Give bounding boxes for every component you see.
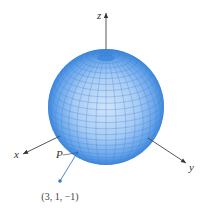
north-pole-shading xyxy=(97,55,115,62)
sphere-diagram: z x y P (3, 1, −1) xyxy=(0,0,205,209)
z-axis-arrowhead xyxy=(104,13,108,18)
y-axis-arrowhead xyxy=(181,158,186,163)
point-p-label: P xyxy=(55,148,63,160)
external-point-marker xyxy=(58,179,62,183)
external-point-label: (3, 1, −1) xyxy=(41,191,78,203)
y-axis-line xyxy=(148,138,186,163)
y-axis: y xyxy=(148,138,194,173)
point-annotation: P (3, 1, −1) xyxy=(41,148,78,203)
z-axis: z xyxy=(96,9,108,49)
y-axis-label: y xyxy=(188,161,194,173)
z-axis-label: z xyxy=(96,9,102,21)
x-axis-line xyxy=(23,136,60,154)
sphere xyxy=(48,49,164,165)
x-axis-label: x xyxy=(13,148,19,160)
x-axis: x xyxy=(13,136,60,160)
